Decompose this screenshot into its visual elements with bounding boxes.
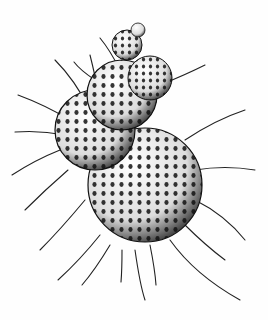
chamber-right-small xyxy=(128,56,172,100)
illustration-canvas xyxy=(0,0,268,320)
chamber-tip xyxy=(131,23,145,37)
foraminifera-drawing xyxy=(0,0,268,320)
